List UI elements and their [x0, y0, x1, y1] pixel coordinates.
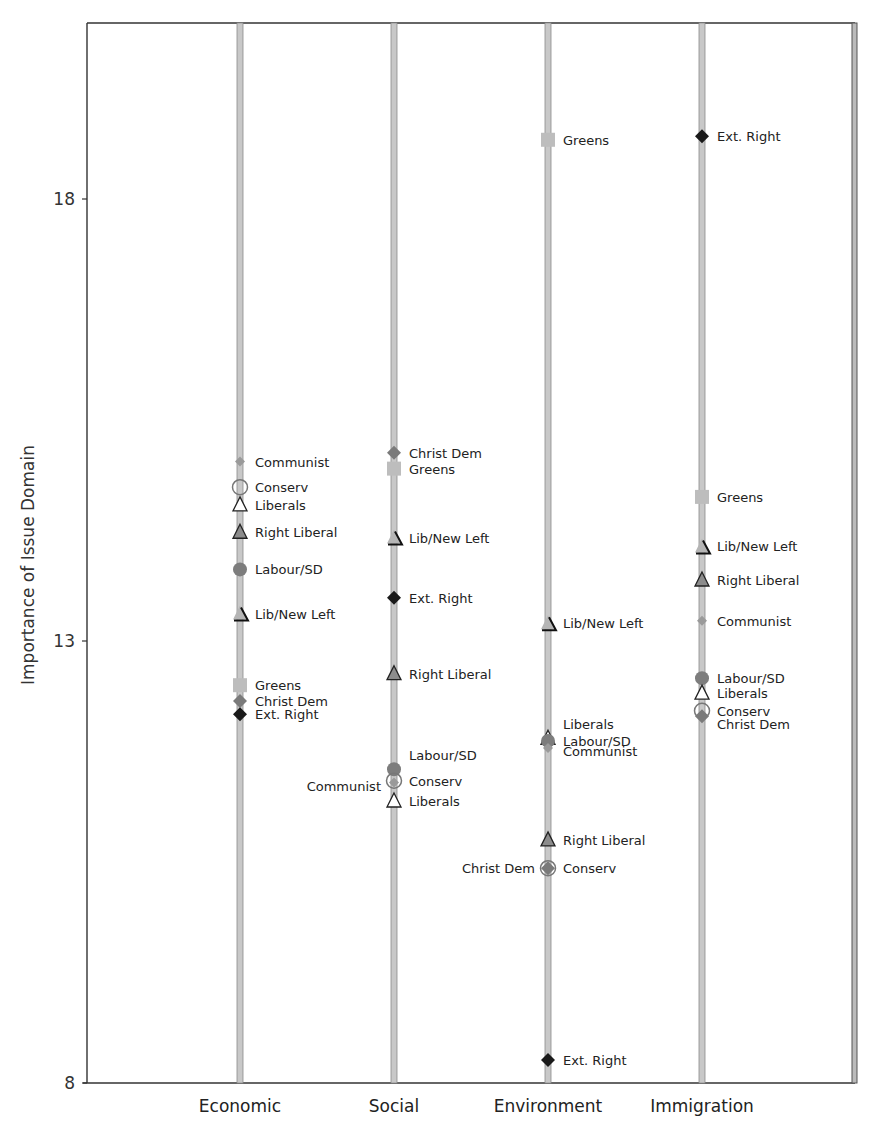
category-line-social [391, 23, 397, 1083]
diamond-shape [233, 694, 247, 708]
circle-shape [233, 562, 247, 576]
issue-importance-chart: 81318 EconomicSocialEnvironmentImmigrati… [0, 0, 871, 1134]
square-shape [541, 133, 555, 147]
point-label: Ext. Right [563, 1053, 627, 1068]
category-line-economic [237, 23, 243, 1083]
point-label: Labour/SD [409, 748, 477, 763]
marker-christ-dem [387, 446, 401, 460]
marker-liberals [695, 685, 709, 699]
diamond-shape [695, 129, 709, 143]
marker-labour-sd [695, 671, 709, 685]
point-label: Communist [717, 614, 791, 629]
y-tick-label: 18 [53, 189, 75, 209]
x-tick-label-immigration: Immigration [650, 1096, 754, 1116]
point-label: Lib/New Left [717, 539, 797, 554]
y-tick-label: 13 [53, 631, 75, 651]
marker-lib-new-left [387, 530, 402, 545]
triangle-shape [233, 606, 247, 620]
triangle-shape [387, 666, 401, 680]
diamond-shape [541, 1053, 555, 1067]
marker-ext-right [387, 591, 401, 605]
marker-greens [387, 462, 401, 476]
x-tick-label-economic: Economic [199, 1096, 281, 1116]
series-social: Christ DemGreensLib/New LeftExt. RightRi… [307, 446, 492, 809]
marker-right-liberal [387, 666, 401, 680]
marker-communist [389, 777, 399, 787]
square-shape [695, 490, 709, 504]
triangle-shape [695, 685, 709, 699]
marker-liberals [387, 793, 401, 807]
category-line-environment [545, 23, 551, 1083]
point-label: Christ Dem [462, 861, 535, 876]
diamond-shape [697, 616, 707, 626]
point-label: Greens [255, 678, 301, 693]
point-label: Liberals [255, 498, 306, 513]
point-label: Right Liberal [717, 573, 799, 588]
triangle-shape [387, 530, 401, 544]
point-label: Labour/SD [255, 562, 323, 577]
y-axis-label: Importance of Issue Domain [18, 445, 38, 685]
x-axis: EconomicSocialEnvironmentImmigration [199, 1096, 754, 1116]
marker-christ-dem [695, 709, 709, 723]
diamond-shape [235, 457, 245, 467]
point-label: Greens [717, 490, 763, 505]
marker-liberals [233, 497, 247, 511]
marker-christ-dem [233, 694, 247, 708]
triangle-shape [541, 615, 555, 629]
point-label: Greens [409, 462, 455, 477]
point-label: Ext. Right [717, 129, 781, 144]
point-label: Communist [307, 779, 381, 794]
point-label: Communist [255, 455, 329, 470]
triangle-shape [387, 793, 401, 807]
triangle-shape [233, 524, 247, 538]
diamond-shape [389, 777, 399, 787]
triangle-shape [695, 538, 709, 552]
point-label: Ext. Right [255, 707, 319, 722]
point-label: Right Liberal [563, 833, 645, 848]
point-label: Communist [563, 744, 637, 759]
point-label: Liberals [717, 686, 768, 701]
point-label: Conserv [255, 480, 308, 495]
x-tick-label-social: Social [369, 1096, 419, 1116]
point-label: Lib/New Left [255, 607, 335, 622]
point-label: Christ Dem [717, 717, 790, 732]
point-label: Conserv [563, 861, 616, 876]
point-label: Lib/New Left [563, 616, 643, 631]
triangle-shape [541, 832, 555, 846]
diamond-shape [695, 709, 709, 723]
point-label: Liberals [563, 717, 614, 732]
square-shape [387, 462, 401, 476]
triangle-shape [695, 572, 709, 586]
y-tick-label: 8 [64, 1073, 75, 1093]
point-label: Lib/New Left [409, 531, 489, 546]
y-axis: 81318 [53, 189, 87, 1093]
point-label: Liberals [409, 794, 460, 809]
marker-greens [695, 490, 709, 504]
marker-lib-new-left [233, 606, 248, 621]
square-shape [233, 678, 247, 692]
triangle-shape [233, 497, 247, 511]
diamond-shape [233, 707, 247, 721]
series-economic: CommunistConservLiberalsRight LiberalLab… [233, 455, 338, 723]
diamond-shape [387, 591, 401, 605]
marker-ext-right [233, 707, 247, 721]
diamond-shape [387, 446, 401, 460]
point-label: Christ Dem [409, 446, 482, 461]
point-label: Labour/SD [717, 671, 785, 686]
point-label: Ext. Right [409, 591, 473, 606]
marker-ext-right [695, 129, 709, 143]
marker-labour-sd [233, 562, 247, 576]
series-environment: GreensLib/New LeftLiberalsLabour/SDCommu… [462, 133, 645, 1068]
marker-ext-right [541, 1053, 555, 1067]
marker-right-liberal [541, 832, 555, 846]
marker-lib-new-left [695, 538, 710, 553]
marker-greens [233, 678, 247, 692]
marker-lib-new-left [541, 615, 556, 630]
marker-communist [697, 616, 707, 626]
marker-communist [235, 457, 245, 467]
point-label: Right Liberal [409, 667, 491, 682]
point-label: Conserv [409, 774, 462, 789]
marker-right-liberal [695, 572, 709, 586]
marker-right-liberal [233, 524, 247, 538]
point-label: Right Liberal [255, 525, 337, 540]
